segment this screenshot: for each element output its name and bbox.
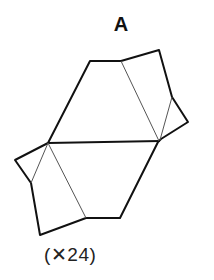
net-diagram [0, 0, 214, 280]
quantity-label: (✕24) [44, 243, 96, 267]
